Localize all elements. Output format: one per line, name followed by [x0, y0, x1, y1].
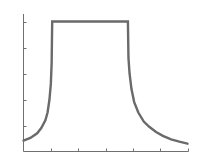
- chart: [0, 0, 200, 164]
- axes: [24, 14, 189, 152]
- series-line-1: [24, 22, 188, 144]
- series-group: [24, 22, 188, 144]
